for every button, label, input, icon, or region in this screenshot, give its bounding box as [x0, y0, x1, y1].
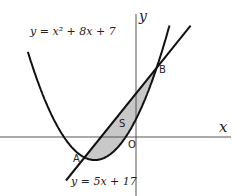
- point-a-label: A: [73, 153, 80, 164]
- curve-equation-label: y = x² + 8x + 7: [30, 25, 116, 38]
- line-equation-label: y = 5x + 17: [71, 175, 137, 188]
- x-axis-label: x: [219, 118, 227, 136]
- origin-label: O: [128, 139, 136, 150]
- y-axis-label: y: [139, 8, 147, 24]
- straight-line: [66, 26, 191, 181]
- point-b-label: B: [159, 64, 166, 75]
- region-s-label: S: [119, 118, 125, 129]
- diagram-canvas: y = x² + 8x + 7 y = 5x + 17 x y A B O S: [0, 0, 243, 196]
